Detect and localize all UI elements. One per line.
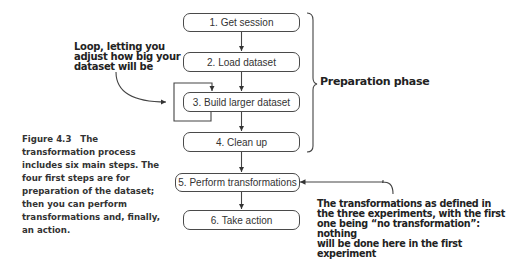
- step-1-box: 1. Get session: [183, 13, 300, 32]
- figure-number: Figure 4.3: [22, 134, 71, 144]
- figure-caption: Figure 4.3 The transformation process in…: [22, 133, 162, 237]
- step-3-label: 3. Build larger dataset: [193, 97, 290, 108]
- transformations-annotation-line: one being “no transformation”: nothing: [317, 219, 512, 239]
- loop-annotation-line: dataset will be: [74, 62, 180, 72]
- step-6-label: 6. Take action: [211, 215, 273, 226]
- preparation-phase-label: Preparation phase: [320, 77, 429, 87]
- step-4-box: 4. Clean up: [183, 132, 300, 152]
- loop-annotation: Loop, letting you adjust how big your da…: [74, 42, 180, 72]
- transformations-annotation: The transformations as defined in the th…: [317, 199, 512, 259]
- step-1-label: 1. Get session: [210, 17, 274, 28]
- loop-pointer: [116, 72, 166, 102]
- step-6-box: 6. Take action: [183, 210, 300, 230]
- step-4-label: 4. Clean up: [216, 137, 267, 148]
- step-3-box: 3. Build larger dataset: [183, 92, 300, 112]
- transform-pointer-curve: [382, 182, 393, 194]
- transformations-annotation-line: will be done here in the first experimen…: [317, 239, 512, 259]
- figure-caption-text: The transformation process includes six …: [22, 134, 160, 235]
- step-5-label: 5. Perform transformations: [178, 177, 296, 188]
- preparation-brace: [307, 13, 317, 152]
- step-2-box: 2. Load dataset: [183, 52, 300, 72]
- step-2-label: 2. Load dataset: [207, 57, 276, 68]
- step-5-box: 5. Perform transformations: [175, 173, 300, 192]
